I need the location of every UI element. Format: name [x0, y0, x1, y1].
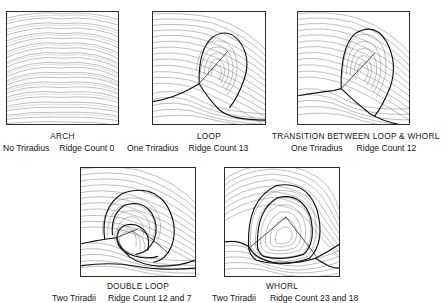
double-loop-ridge-drawing — [81, 168, 195, 276]
pattern-cell-double-loop: DOUBLE LOOP Two TriradiiRidge Count 12 a… — [80, 167, 196, 303]
loop-ridge-drawing — [153, 12, 265, 124]
fingerprint-image-loop — [152, 11, 266, 125]
fingerprint-image-arch — [6, 11, 119, 125]
ridge-count-label-loop: Ridge Count 13 — [189, 143, 249, 154]
pattern-detail-arch: No TriradiusRidge Count 0 — [3, 143, 122, 154]
pattern-cell-arch: ARCH No TriradiusRidge Count 0 — [6, 11, 119, 153]
pattern-cell-loop: LOOP One TriradiusRidge Count 13 — [152, 11, 266, 153]
pattern-cell-transition: TRANSITION BETWEEN LOOP & WHORL One Trir… — [297, 11, 410, 153]
pattern-detail-loop: One TriradiusRidge Count 13 — [127, 143, 291, 154]
ridge-count-label-double-loop: Ridge Count 12 and 7 — [108, 293, 192, 303]
fingerprint-image-transition — [297, 11, 410, 125]
triradius-label-loop: One Triradius — [127, 143, 179, 154]
ridge-count-label-transition: Ridge Count 12 — [357, 143, 417, 154]
pattern-cell-whorl: WHORL Two TriradiiRidge Count 23 and 18 — [224, 167, 340, 303]
pattern-detail-whorl: Two TriradiiRidge Count 23 and 18 — [212, 293, 392, 303]
ridge-count-label-arch: Ridge Count 0 — [59, 143, 114, 154]
transition-ridge-drawing — [298, 12, 409, 124]
triradius-label-transition: One Triradius — [291, 143, 343, 154]
ridge-count-label-whorl: Ridge Count 23 and 18 — [270, 293, 358, 303]
triradius-label-whorl: Two Triradii — [212, 293, 256, 303]
fingerprint-image-whorl — [224, 167, 340, 277]
fingerprint-pattern-figure: ARCH No TriradiusRidge Count 0 — [0, 0, 448, 303]
pattern-name-transition: TRANSITION BETWEEN LOOP & WHORL — [272, 131, 435, 141]
arch-ridge-drawing — [7, 12, 118, 124]
fingerprint-image-double-loop — [80, 167, 196, 277]
whorl-ridge-drawing — [225, 168, 339, 276]
pattern-detail-transition: One TriradiusRidge Count 12 — [291, 143, 421, 154]
pattern-name-arch: ARCH — [6, 131, 119, 141]
pattern-name-whorl: WHORL — [224, 281, 340, 291]
triradius-label-double-loop: Two Triradii — [52, 293, 96, 303]
pattern-name-loop: LOOP — [152, 131, 266, 141]
pattern-name-double-loop: DOUBLE LOOP — [80, 281, 196, 291]
pattern-detail-double-loop: Two TriradiiRidge Count 12 and 7 — [52, 293, 227, 303]
triradius-label-arch: No Triradius — [3, 143, 49, 154]
